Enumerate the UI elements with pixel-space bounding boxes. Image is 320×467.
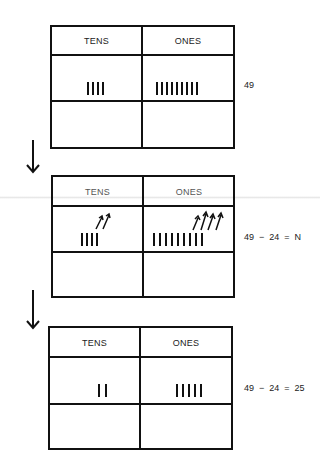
row-divider — [50, 403, 231, 405]
row-divider — [52, 100, 233, 102]
place-value-table-1: TENS ONES — [50, 25, 235, 149]
place-value-table-3: TENS ONES — [48, 326, 233, 450]
tens-tally — [87, 82, 104, 95]
place-value-table-2: TENS ONES — [51, 175, 235, 298]
equation-1: 49 — [244, 80, 254, 90]
equation-3: 49 − 24 = 25 — [244, 383, 305, 393]
tens-tally — [98, 384, 107, 397]
row-divider — [50, 356, 231, 358]
down-arrow-icon — [26, 140, 40, 174]
tens-header: TENS — [52, 36, 141, 46]
row-divider — [53, 205, 233, 207]
removal-arrows-ones — [191, 210, 227, 232]
equation-2: 49 − 24 = N — [244, 232, 301, 242]
ones-header: ONES — [141, 338, 231, 348]
ones-tally — [153, 233, 203, 246]
tens-tally — [81, 233, 98, 246]
tens-header: TENS — [50, 338, 139, 348]
ones-tally — [156, 82, 198, 95]
row-divider — [53, 251, 233, 253]
down-arrow-icon — [26, 290, 40, 330]
tens-header: TENS — [53, 187, 142, 197]
row-divider — [52, 54, 233, 56]
ones-tally — [176, 384, 202, 397]
removal-arrows-tens — [93, 211, 117, 231]
ones-header: ONES — [144, 187, 234, 197]
ones-header: ONES — [143, 36, 233, 46]
